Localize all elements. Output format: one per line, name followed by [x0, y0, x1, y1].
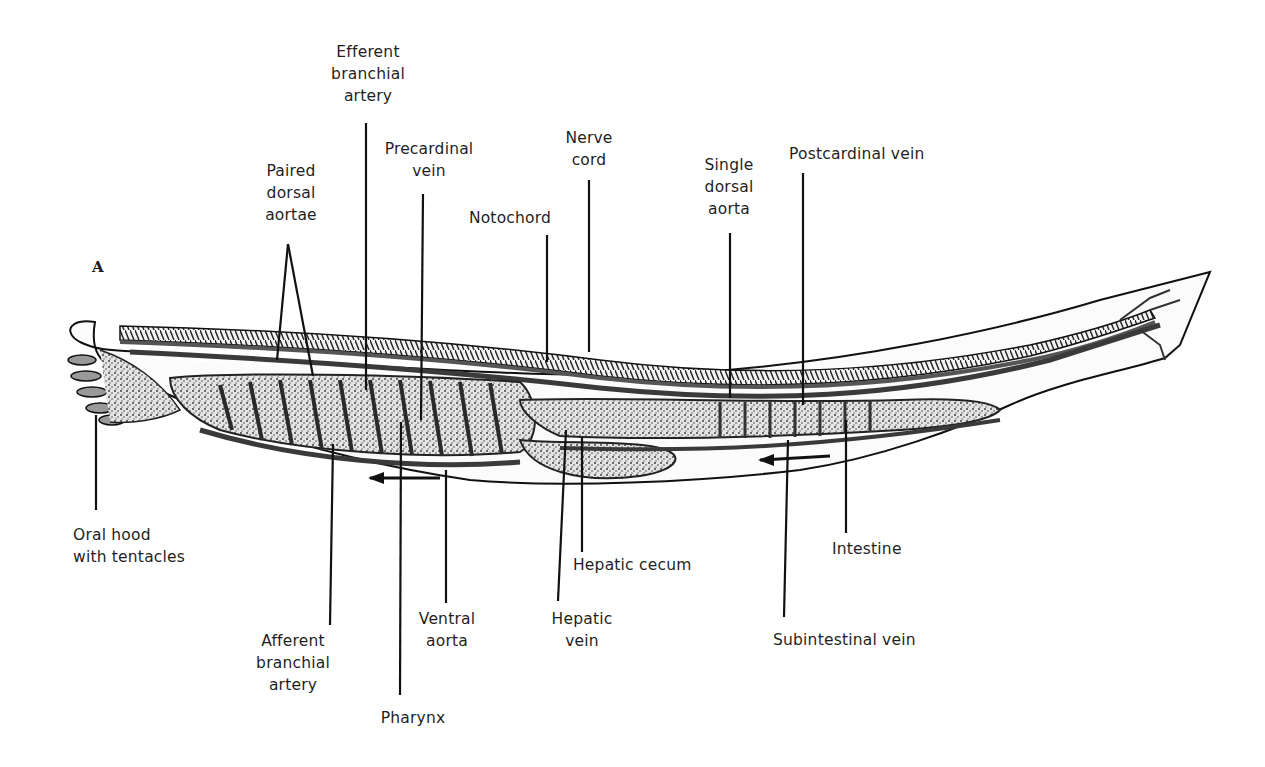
label-nerve-cord: Nerve cord [556, 127, 622, 171]
label-precardinal-vein: Precardinal vein [374, 138, 484, 182]
label-single-dorsal-aorta: Single dorsal aorta [684, 154, 774, 220]
label-postcardinal-vein: Postcardinal vein [789, 143, 925, 165]
label-ventral-aorta: Ventral aorta [407, 608, 487, 652]
panel-label: A [92, 258, 104, 276]
label-intestine: Intestine [832, 538, 902, 560]
label-oral-hood: Oral hood with tentacles [73, 524, 185, 568]
label-notochord: Notochord [455, 207, 565, 229]
label-afferent-branchial-artery: Afferent branchial artery [243, 630, 343, 696]
label-efferent-branchial-artery: Efferent branchial artery [318, 41, 418, 107]
amphioxus-diagram [0, 0, 1265, 767]
label-subintestinal-vein: Subintestinal vein [773, 629, 916, 651]
label-pharynx: Pharynx [368, 707, 458, 729]
label-paired-dorsal-aortae: Paired dorsal aortae [246, 160, 336, 226]
label-hepatic-cecum: Hepatic cecum [573, 554, 691, 576]
label-hepatic-vein: Hepatic vein [542, 608, 622, 652]
